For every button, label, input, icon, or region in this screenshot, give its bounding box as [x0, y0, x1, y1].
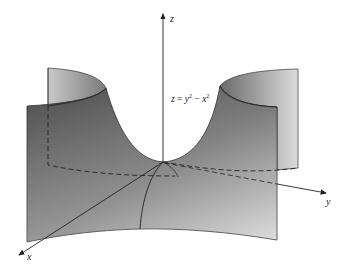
y-axis	[277, 184, 326, 193]
y-axis-label: y	[326, 197, 330, 207]
z-axis-label: z	[170, 14, 174, 24]
surface-equation: z = y2 − x2	[171, 93, 209, 105]
saddle-surface-figure	[0, 0, 353, 274]
x-axis-label: x	[27, 252, 31, 262]
